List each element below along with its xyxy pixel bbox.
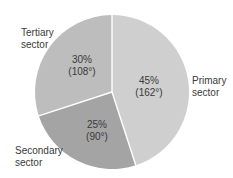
tertiary-label-line2: sector [21,39,54,51]
tertiary-percent: 30% [68,54,95,66]
primary-label-line1: Primary [192,75,226,87]
tertiary-degrees: (108°) [68,66,95,78]
tertiary-sector-label: Tertiary sector [21,27,54,51]
primary-label-line2: sector [192,87,226,99]
primary-sector-label: Primary sector [192,75,226,99]
tertiary-label-line1: Tertiary [21,27,54,39]
secondary-percent: 25% [86,119,108,131]
secondary-sector-label: Secondary sector [15,145,63,169]
secondary-label-line1: Secondary [15,145,63,157]
secondary-degrees: (90°) [86,131,108,143]
primary-percent: 45% [135,75,162,87]
primary-degrees: (162°) [135,87,162,99]
tertiary-value-label: 30% (108°) [68,54,95,78]
secondary-value-label: 25% (90°) [86,119,108,143]
secondary-label-line2: sector [15,157,63,169]
primary-value-label: 45% (162°) [135,75,162,99]
